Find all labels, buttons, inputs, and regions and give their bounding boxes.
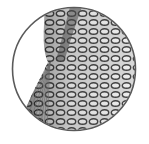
net-circle-illustration <box>0 0 149 144</box>
mesh-circle-icon <box>0 0 149 144</box>
